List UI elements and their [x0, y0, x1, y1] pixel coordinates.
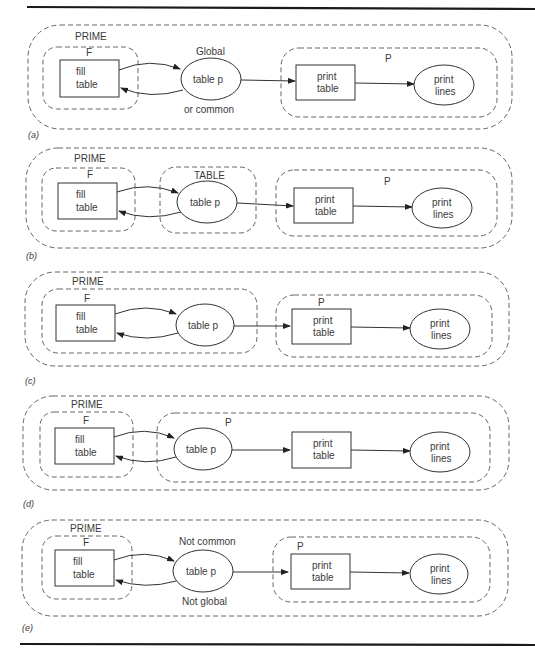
table-box-label: TABLE: [194, 170, 225, 181]
f-label: F: [84, 293, 90, 304]
table-p-label: table p: [186, 566, 216, 577]
arrow-table-to-fill: [116, 580, 176, 585]
table-p-label: table p: [188, 320, 218, 331]
prime-label: PRIME: [72, 276, 104, 287]
print-lines-line1: print: [434, 74, 454, 85]
print-table-line2: table: [312, 572, 334, 583]
fill-table-box: [56, 305, 115, 341]
caption-a: (a): [28, 130, 39, 140]
print-table-line1: print: [317, 71, 337, 82]
f-label: F: [83, 537, 89, 548]
print-lines-node: [410, 554, 468, 594]
panel-e: PRIME F fill table Not common table p No…: [22, 520, 508, 633]
arrow-table-to-fill: [117, 333, 178, 338]
print-lines-line2: lines: [431, 453, 452, 464]
note-not-common: Not common: [179, 536, 236, 547]
print-table-line1: print: [313, 438, 333, 449]
arrow-table-to-fill: [119, 211, 181, 217]
arrow-fill-to-table: [114, 554, 174, 561]
print-table-line1: print: [315, 194, 335, 205]
panel-b: PRIME F fill table TABLE table p P print…: [26, 148, 512, 261]
print-lines-line1: print: [432, 197, 452, 208]
fill-table-line2: table: [75, 447, 97, 458]
p-label: P: [297, 541, 304, 552]
top-rule: [27, 7, 535, 9]
arrow-fill-to-table: [117, 187, 178, 193]
fill-table-line2: table: [76, 202, 98, 213]
arrow-print-to-lines: [351, 327, 410, 328]
caption-c: (c): [25, 376, 36, 386]
caption-e: (e): [22, 623, 33, 633]
print-lines-line2: lines: [435, 86, 456, 97]
p-label: P: [384, 176, 391, 187]
arrow-print-to-lines: [355, 83, 414, 84]
p-label: P: [318, 297, 325, 308]
fill-table-box: [55, 428, 114, 464]
print-lines-node: [414, 65, 474, 105]
f-label: F: [83, 415, 89, 426]
print-table-line1: print: [313, 315, 333, 326]
prime-label: PRIME: [71, 399, 103, 410]
fill-table-line2: table: [76, 79, 98, 90]
arrow-fill-to-table: [115, 308, 176, 314]
note-or-common: or common: [184, 104, 234, 115]
arrow-print-to-lines: [353, 206, 412, 207]
fill-table-line1: fill: [76, 189, 85, 200]
fill-table-box: [58, 183, 117, 219]
print-lines-line1: print: [430, 441, 450, 452]
fill-table-line1: fill: [73, 556, 82, 567]
arrow-table-to-fill: [121, 88, 183, 95]
table-p-label: table p: [193, 74, 223, 85]
panel-c: PRIME F fill table table p P print table…: [25, 272, 509, 386]
table-p-label: table p: [186, 444, 216, 455]
fill-table-line2: table: [76, 324, 98, 335]
print-lines-node: [410, 432, 470, 472]
print-table-line2: table: [313, 450, 335, 461]
arrow-fill-to-table: [119, 63, 180, 70]
arrow-table-to-print: [241, 80, 295, 81]
arrow-print-to-lines: [351, 450, 410, 451]
prime-label: PRIME: [70, 523, 102, 534]
panel-d: PRIME F fill table P table p print table…: [23, 396, 509, 509]
fill-table-line1: fill: [76, 66, 85, 77]
print-lines-line2: lines: [431, 330, 452, 341]
p-label: P: [225, 417, 232, 428]
print-lines-node: [410, 309, 470, 349]
p-label: P: [385, 53, 392, 64]
arrow-fill-to-table: [114, 431, 174, 438]
prime-label: PRIME: [75, 31, 107, 42]
f-label: F: [86, 47, 92, 58]
caption-d: (d): [23, 499, 34, 509]
arrow-table-to-print: [237, 203, 293, 206]
fill-table-line2: table: [73, 569, 95, 580]
arrow-print-to-lines: [350, 572, 409, 573]
f-label: F: [87, 169, 93, 180]
print-lines-node: [412, 188, 472, 228]
caption-b: (b): [26, 251, 37, 261]
prime-label: PRIME: [74, 153, 106, 164]
print-lines-line1: print: [430, 318, 450, 329]
panel-a: PRIME F fill table Global table p or com…: [28, 25, 512, 140]
fill-table-box: [55, 550, 114, 586]
module-scope-diagram: PRIME F fill table Global table p or com…: [0, 0, 535, 656]
fill-table-line1: fill: [76, 311, 85, 322]
note-global: Global: [196, 46, 225, 57]
print-table-line2: table: [315, 206, 337, 217]
fill-table-line1: fill: [75, 434, 84, 445]
print-lines-line1: print: [430, 563, 450, 574]
table-p-label: table p: [190, 197, 220, 208]
print-table-line2: table: [317, 83, 339, 94]
print-lines-line2: lines: [431, 575, 452, 586]
print-table-line2: table: [313, 327, 335, 338]
arrow-table-to-fill: [116, 456, 176, 462]
note-not-global: Not global: [182, 596, 227, 607]
print-table-line1: print: [312, 560, 332, 571]
bottom-rule: [20, 644, 535, 645]
print-lines-line2: lines: [433, 209, 454, 220]
